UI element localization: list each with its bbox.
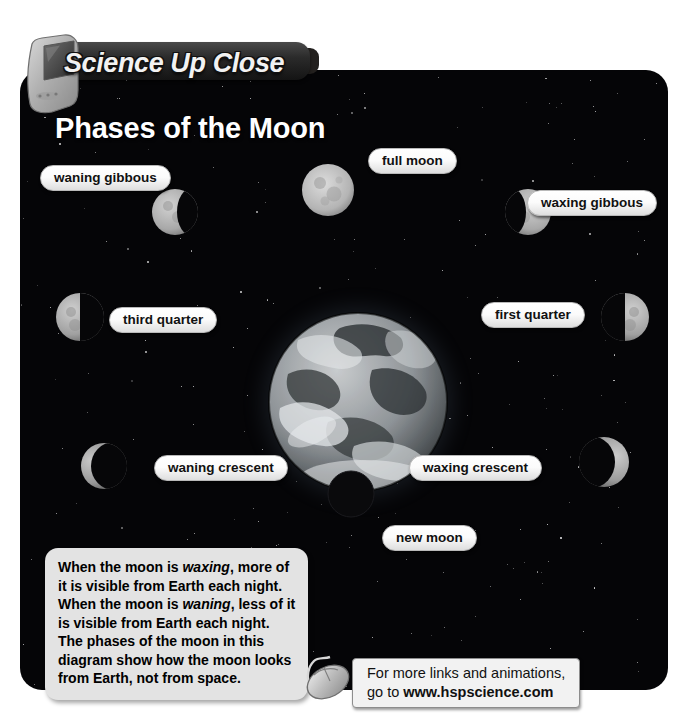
first-quarter-svg [600, 292, 650, 342]
label-first-quarter[interactable]: first quarter [481, 302, 585, 328]
label-third-quarter[interactable]: third quarter [109, 307, 217, 333]
moon-phase-first-quarter [600, 292, 650, 342]
callout-emphasis-waning: waning [182, 596, 230, 612]
label-waning-crescent[interactable]: waning crescent [154, 455, 288, 481]
footer-url[interactable]: www.hspscience.com [403, 684, 553, 700]
moon-phase-third-quarter [55, 292, 105, 342]
science-up-close-figure: Science Up Close Phases of the Moon wani… [0, 0, 684, 723]
label-new-moon[interactable]: new moon [382, 525, 477, 551]
footer-goto-prefix: go to [367, 684, 403, 700]
full-moon-svg [301, 163, 355, 217]
footer-line-2: go to www.hspscience.com [367, 683, 565, 702]
label-waxing-crescent[interactable]: waxing crescent [409, 455, 542, 481]
explanation-callout: When the moon is waxing, more of it is v… [45, 548, 308, 700]
callout-emphasis-waxing: waxing [182, 559, 229, 575]
footer-line-1: For more links and animations, [367, 664, 565, 683]
moon-phase-waning-gibbous [151, 188, 199, 236]
label-full-moon[interactable]: full moon [368, 148, 457, 174]
moon-phase-waning-crescent [80, 442, 128, 490]
moon-phase-full-moon [301, 163, 355, 217]
label-waxing-gibbous[interactable]: waxing gibbous [527, 190, 657, 216]
callout-text-1: When the moon is [58, 559, 182, 575]
moon-phase-waxing-crescent [578, 436, 630, 488]
page-title: Phases of the Moon [55, 112, 325, 145]
new-moon-svg [327, 470, 375, 518]
third-quarter-svg [55, 292, 105, 342]
waning-crescent-svg [80, 442, 128, 490]
waning-gibbous-svg [151, 188, 199, 236]
banner-title: Science Up Close [64, 48, 284, 79]
moon-phase-new-moon [327, 470, 375, 518]
label-waning-gibbous[interactable]: waning gibbous [40, 165, 171, 191]
waxing-crescent-svg [578, 436, 630, 488]
footer-url-box[interactable]: For more links and animations, go to www… [352, 658, 580, 708]
